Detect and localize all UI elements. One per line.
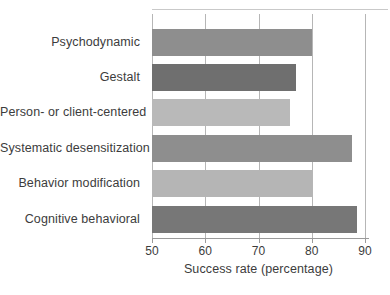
- category-label: Psychodynamic: [0, 29, 146, 56]
- x-tick-label-80: 80: [297, 244, 327, 258]
- x-tick-60: [205, 238, 206, 243]
- bar: [152, 135, 352, 162]
- x-tick-80: [312, 238, 313, 243]
- x-tick-label-90: 90: [350, 244, 380, 258]
- bar: [152, 64, 296, 91]
- therapy-success-bar-chart: PsychodynamicGestaltPerson- or client-ce…: [0, 0, 390, 295]
- bar: [152, 206, 357, 233]
- bar-row: Psychodynamic: [0, 29, 390, 56]
- category-label: Systematic desensitization: [0, 135, 146, 162]
- bars-layer: PsychodynamicGestaltPerson- or client-ce…: [0, 0, 390, 238]
- x-tick-label-70: 70: [244, 244, 274, 258]
- category-label: Gestalt: [0, 64, 146, 91]
- category-label: Cognitive behavioral: [0, 206, 146, 233]
- x-axis-line: [152, 238, 369, 239]
- bar: [152, 99, 290, 126]
- category-label: Person- or client-centered: [0, 99, 146, 126]
- x-tick-50: [152, 238, 153, 243]
- bar-row: Gestalt: [0, 64, 390, 91]
- bar-row: Behavior modification: [0, 170, 390, 197]
- x-tick-90: [365, 238, 366, 243]
- bar-row: Systematic desensitization: [0, 135, 390, 162]
- x-axis-title: Success rate (percentage): [152, 262, 365, 276]
- category-label: Behavior modification: [0, 170, 146, 197]
- bar-row: Person- or client-centered: [0, 99, 390, 126]
- x-tick-label-60: 60: [190, 244, 220, 258]
- x-tick-label-50: 50: [137, 244, 167, 258]
- bar: [152, 170, 312, 197]
- bar: [152, 29, 312, 56]
- x-tick-70: [259, 238, 260, 243]
- bar-row: Cognitive behavioral: [0, 206, 390, 233]
